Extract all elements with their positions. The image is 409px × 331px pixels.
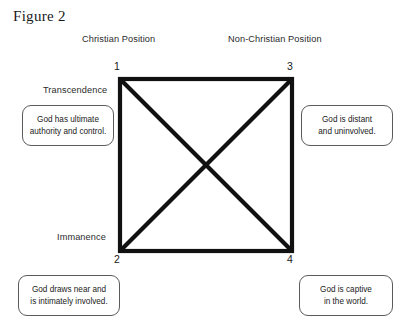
- callout-top-right: God is distant and uninvolved.: [301, 105, 393, 146]
- callout-top-left: God has ultimate authority and control.: [22, 105, 114, 146]
- callout-bottom-right-line-1: God is captive: [320, 284, 372, 296]
- callout-bottom-left-line-2: is intimately involved.: [30, 296, 107, 308]
- callout-top-left-line-2: authority and control.: [30, 126, 106, 138]
- callout-top-left-line-1: God has ultimate: [37, 114, 99, 126]
- callout-top-right-line-1: God is distant: [322, 114, 372, 126]
- column-header-christian-position: Christian Position: [82, 34, 155, 44]
- callout-bottom-left: God draws near and is intimately involve…: [18, 275, 120, 316]
- column-header-non-christian-position: Non-Christian Position: [228, 34, 322, 44]
- axis-label-immanence: Immanence: [57, 232, 106, 242]
- axis-label-transcendence: Transcendence: [43, 85, 107, 95]
- callout-bottom-left-line-1: God draws near and: [32, 284, 106, 296]
- callout-top-right-line-2: and uninvolved.: [318, 126, 375, 138]
- square-with-diagonals-graphic: [112, 71, 300, 259]
- callout-bottom-right: God is captive in the world.: [299, 275, 393, 316]
- figure-title: Figure 2: [13, 8, 66, 25]
- figure-container: Figure 2 Christian Position Non-Christia…: [0, 0, 409, 331]
- callout-bottom-right-line-2: in the world.: [324, 296, 368, 308]
